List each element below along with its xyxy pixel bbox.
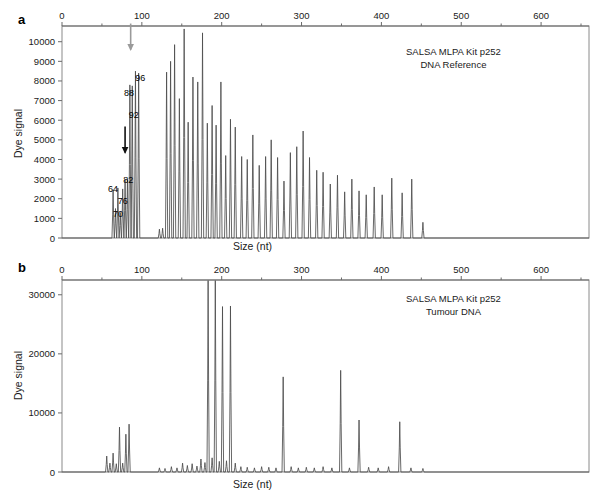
gray-arrow-down-icon [127,24,134,52]
signal-trace [62,29,589,238]
x-tick-label: 500 [453,10,469,21]
x-tick-label: 300 [294,10,310,21]
y-tick-label: 5000 [34,134,55,145]
x-tick-label: 400 [373,264,389,275]
x-tick-label: 0 [59,264,64,275]
x-tick-label: 100 [134,264,150,275]
y-tick-label: 4000 [34,154,55,165]
peak-label: 96 [135,73,145,83]
x-tick-label: 400 [373,10,389,21]
y-tick-label: 30000 [29,289,55,300]
gray-arrow-down-icon-head [127,44,134,51]
y-tick-label: 1000 [34,213,55,224]
x-tick-label: 500 [453,264,469,275]
panel-a: a Dye signal Size (nt) SALSA MLPA Kit p2… [0,0,603,250]
x-tick-label: 0 [59,10,64,21]
y-tick-label: 8000 [34,75,55,86]
black-arrow-down-icon [122,127,129,155]
peak-label: 64 [108,184,118,194]
plot-frame [62,26,589,238]
peak-label: 70 [113,209,123,219]
black-arrow-down-icon-head [122,147,129,154]
peak-label: 82 [123,175,133,185]
y-tick-label: 3000 [34,174,55,185]
x-tick-label: 100 [134,10,150,21]
y-tick-label: 0 [50,467,55,478]
signal-trace [62,281,589,472]
panel-b: b Dye signal Size (nt) SALSA MLPA Kit p2… [0,250,603,497]
y-tick-label: 10000 [29,36,55,47]
y-tick-label: 20000 [29,348,55,359]
y-tick-label: 10000 [29,407,55,418]
peak-label: 88 [124,88,134,98]
x-tick-label: 600 [533,10,549,21]
panel-a-plot: 0100200300400500600010002000300040005000… [0,0,603,250]
y-tick-label: 7000 [34,95,55,106]
plot-frame [62,280,589,472]
x-tick-label: 200 [214,264,230,275]
peak-label: 76 [118,196,128,206]
x-tick-label: 200 [214,10,230,21]
x-tick-label: 600 [533,264,549,275]
y-tick-label: 0 [50,233,55,244]
y-tick-label: 9000 [34,56,55,67]
y-tick-label: 2000 [34,193,55,204]
peak-label: 92 [129,110,139,120]
panel-b-plot: 01002003004005006000100002000030000 [0,250,603,497]
y-tick-label: 6000 [34,115,55,126]
x-tick-label: 300 [294,264,310,275]
